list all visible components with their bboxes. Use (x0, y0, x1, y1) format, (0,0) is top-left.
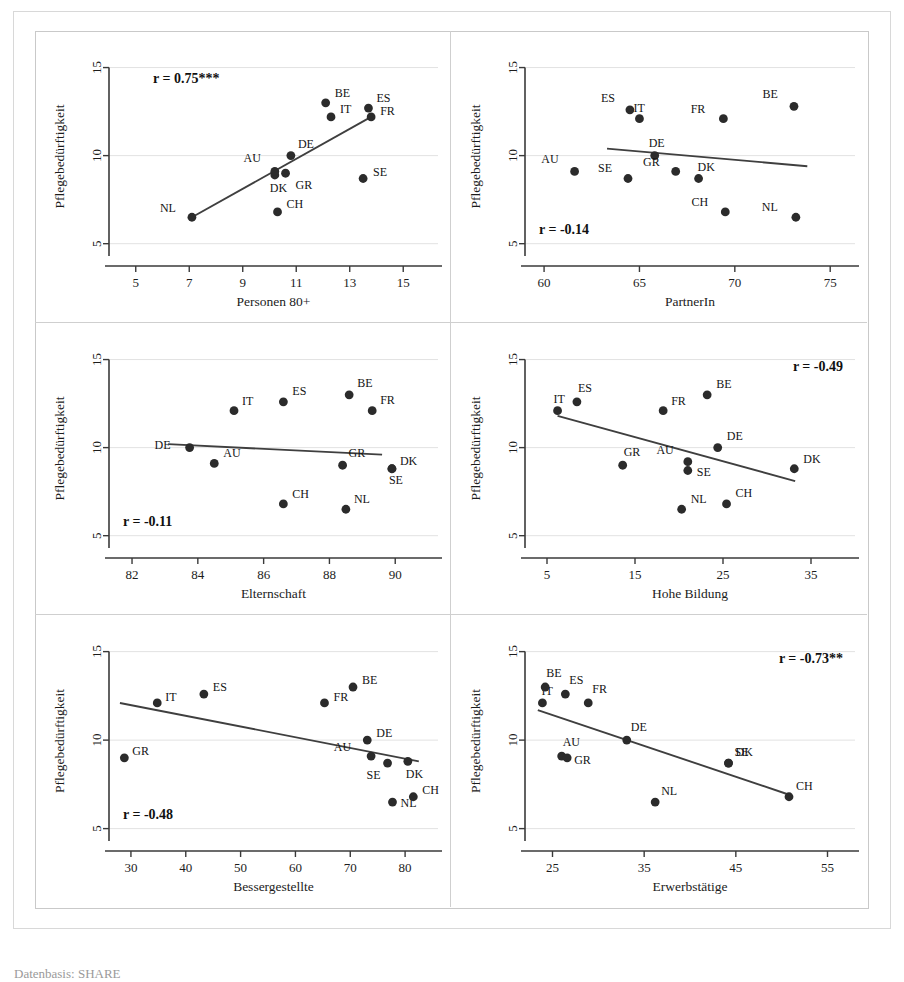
correlation-annotation: r = 0.75*** (153, 71, 219, 86)
regression-line (558, 416, 796, 481)
x-tick-label: 15 (629, 567, 642, 582)
data-point-dk (790, 464, 799, 473)
point-label-it: IT (340, 102, 352, 116)
data-point-de (185, 443, 194, 452)
point-label-nl: NL (691, 492, 707, 506)
data-point-dk (403, 757, 412, 766)
point-label-dk: DK (400, 454, 418, 468)
x-tick-label: 65 (633, 275, 646, 290)
x-tick-label: 15 (397, 275, 410, 290)
point-label-nl: NL (762, 200, 778, 214)
point-label-ch: CH (287, 197, 304, 211)
x-tick-label: 80 (399, 860, 412, 875)
y-axis-title: Pflegebedürftigkeit (52, 689, 67, 793)
y-axis-title: Pflegebedürftigkeit (52, 396, 67, 500)
y-axis-title: Pflegebedürftigkeit (52, 104, 67, 208)
x-tick-label: 60 (289, 860, 302, 875)
data-point-au (210, 459, 219, 468)
data-point-de (363, 736, 372, 745)
x-tick-label: 25 (717, 567, 730, 582)
point-label-au: AU (541, 152, 559, 166)
point-label-ch: CH (692, 195, 709, 209)
x-axis-title: Personen 80+ (237, 294, 311, 309)
y-tick-label: 15 (89, 61, 104, 74)
x-tick-label: 55 (821, 860, 834, 875)
point-label-fr: FR (592, 682, 607, 696)
x-tick-label: 70 (344, 860, 357, 875)
scatter-plot-4: 51015Pflegebedürftigkeit5152535Hohe Bild… (451, 323, 867, 614)
y-tick-label: 10 (89, 734, 104, 747)
data-point-de (622, 736, 631, 745)
correlation-annotation: r = -0.73** (779, 651, 843, 666)
x-tick-label: 45 (729, 860, 742, 875)
y-tick-label: 5 (89, 240, 104, 247)
point-label-be: BE (335, 86, 350, 100)
data-point-ch (785, 792, 794, 801)
data-point-au (683, 457, 692, 466)
x-tick-label: 75 (824, 275, 837, 290)
regression-line (120, 703, 419, 761)
point-label-dk: DK (270, 181, 288, 195)
data-point-au (270, 167, 279, 176)
scatter-panel-hohe-bildung: 51015Pflegebedürftigkeit5152535Hohe Bild… (451, 323, 867, 615)
point-label-es: ES (601, 91, 615, 105)
correlation-annotation: r = -0.11 (123, 514, 172, 529)
x-tick-label: 90 (389, 567, 402, 582)
point-label-ch: CH (736, 486, 753, 500)
data-point-be (321, 98, 330, 107)
point-label-de: DE (727, 429, 743, 443)
point-label-ch: CH (422, 783, 439, 797)
x-tick-label: 7 (186, 275, 193, 290)
point-label-au: AU (243, 151, 261, 165)
data-point-se (683, 466, 692, 475)
x-axis-title: PartnerIn (665, 294, 715, 309)
point-label-be: BE (357, 376, 372, 390)
x-tick-label: 5 (544, 567, 551, 582)
point-label-se: SE (389, 473, 403, 487)
x-tick-label: 35 (638, 860, 651, 875)
data-point-be (790, 102, 799, 111)
data-point-gr (281, 169, 290, 178)
point-label-au: AU (563, 735, 581, 749)
x-axis-title: Hohe Bildung (652, 586, 728, 601)
data-point-de (713, 443, 722, 452)
point-label-se: SE (697, 465, 711, 479)
point-label-it: IT (242, 394, 254, 408)
point-label-gr: GR (574, 753, 591, 767)
x-tick-label: 84 (191, 567, 205, 582)
data-point-be (349, 683, 358, 692)
data-point-gr (338, 461, 347, 470)
point-label-be: BE (763, 87, 778, 101)
data-point-be (703, 390, 712, 399)
data-point-ch (273, 208, 282, 217)
point-label-es: ES (578, 381, 592, 395)
point-label-ch: CH (292, 487, 309, 501)
y-tick-label: 15 (505, 353, 520, 366)
x-tick-label: 5 (132, 275, 139, 290)
x-tick-label: 60 (538, 275, 551, 290)
data-point-gr (671, 167, 680, 176)
y-tick-label: 15 (505, 61, 520, 74)
scatter-plot-6: 51015Pflegebedürftigkeit25354555Erwerbst… (451, 615, 867, 907)
point-label-fr: FR (691, 102, 706, 116)
data-point-au (367, 752, 376, 761)
point-label-fr: FR (333, 690, 348, 704)
x-tick-label: 88 (323, 567, 336, 582)
scatter-panel-bessergestellte: 51015Pflegebedürftigkeit304050607080Bess… (35, 615, 451, 907)
y-tick-label: 10 (505, 441, 520, 454)
correlation-annotation: r = -0.49 (793, 359, 843, 374)
scatter-plot-5: 51015Pflegebedürftigkeit304050607080Bess… (35, 615, 450, 907)
point-label-it: IT (165, 690, 177, 704)
point-label-it: IT (554, 392, 566, 406)
point-label-au: AU (656, 443, 674, 457)
y-tick-label: 5 (505, 240, 520, 247)
data-point-fr (719, 114, 728, 123)
data-point-dk (694, 174, 703, 183)
point-label-se: SE (598, 161, 612, 175)
point-label-de: DE (631, 720, 647, 734)
data-point-be (541, 683, 550, 692)
y-tick-label: 5 (89, 532, 104, 539)
point-label-dk: DK (736, 745, 754, 759)
data-point-gr (120, 753, 129, 762)
point-label-au: AU (334, 740, 352, 754)
